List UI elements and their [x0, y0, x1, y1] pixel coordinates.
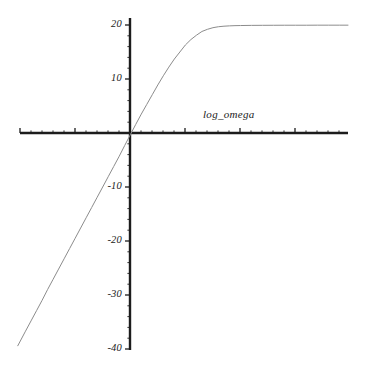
y-tick-label: 10	[92, 73, 122, 84]
chart-figure: 2010-10-20-30-40 log_omega	[0, 0, 370, 370]
chart-canvas	[0, 0, 370, 370]
x-axis-label: log_omega	[203, 109, 255, 120]
x-axis-group	[20, 128, 348, 133]
y-tick-label: -10	[92, 181, 122, 192]
data-series-group	[18, 25, 348, 346]
y-axis-group	[125, 18, 130, 350]
y-tick-label: -40	[92, 343, 122, 354]
y-tick-label: -30	[92, 289, 122, 300]
series-line-0	[18, 25, 348, 346]
y-tick-label: -20	[92, 235, 122, 246]
y-tick-label: 20	[92, 19, 122, 30]
